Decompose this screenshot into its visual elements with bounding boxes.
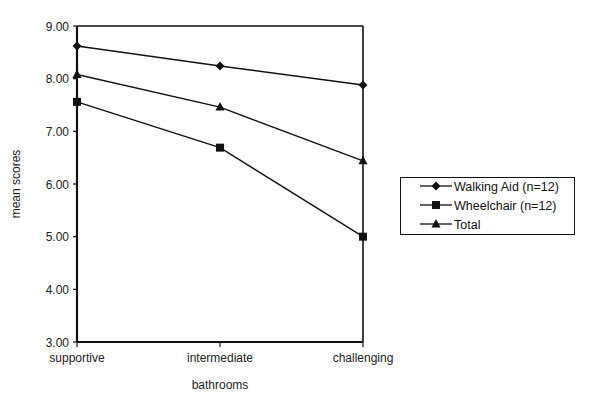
diamond-marker-icon: [359, 80, 368, 89]
diamond-marker-icon: [73, 42, 82, 51]
square-marker-icon: [432, 201, 440, 209]
y-tick-label: 3.00: [46, 336, 70, 350]
series-diamond: [73, 42, 368, 90]
x-tick-label: intermediate: [187, 351, 253, 365]
series-square: [73, 98, 367, 241]
legend-label: Wheelchair (n=12): [454, 199, 556, 213]
y-axis-title: mean scores: [9, 150, 23, 219]
square-marker-icon: [359, 233, 367, 241]
legend: Walking Aid (n=12) Wheelchair (n=12) Tot…: [401, 178, 575, 235]
legend-label: Walking Aid (n=12): [454, 180, 559, 194]
x-tick-label: challenging: [333, 351, 394, 365]
y-tick-label: 9.00: [46, 20, 70, 34]
y-tick-label: 6.00: [46, 178, 70, 192]
line-chart: 3.004.005.006.007.008.009.00 supportivei…: [0, 0, 590, 406]
x-axis-title: bathrooms: [192, 378, 249, 392]
y-tick-label: 4.00: [46, 283, 70, 297]
y-axis-ticks: 3.004.005.006.007.008.009.00: [46, 20, 77, 350]
plot-area: [77, 26, 363, 342]
y-tick-label: 8.00: [46, 72, 70, 86]
triangle-marker-icon: [73, 69, 82, 78]
square-marker-icon: [73, 98, 81, 106]
series-layer: [73, 42, 368, 241]
diamond-marker-icon: [216, 62, 225, 71]
x-axis-ticks: supportiveintermediatechallenging: [49, 342, 393, 365]
x-tick-label: supportive: [49, 351, 105, 365]
square-marker-icon: [216, 144, 224, 152]
y-tick-label: 7.00: [46, 125, 70, 139]
y-tick-label: 5.00: [46, 230, 70, 244]
legend-label: Total: [454, 218, 480, 232]
